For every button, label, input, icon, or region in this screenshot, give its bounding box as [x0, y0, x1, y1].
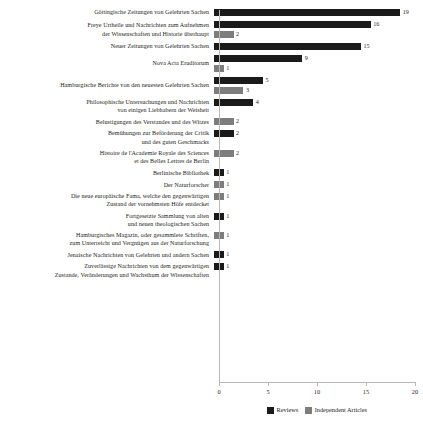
chart-row: Freye Urtheile und Nachrichten zum Aufne… — [0, 20, 423, 39]
bar-reviews[interactable] — [214, 43, 361, 50]
chart-row: Philosophische Untersuchungen und Nachri… — [0, 98, 423, 114]
category-label: Berlinische Bibliothek — [0, 169, 214, 177]
chart-row: Hamburgische Berichte von den neuesten G… — [0, 76, 423, 95]
chart-row: Nova Acta Eruditorum91 — [0, 54, 423, 73]
bar-value-label: 1 — [226, 213, 229, 220]
category-label-line: Freye Urtheile und Nachrichten zum Aufne… — [0, 21, 209, 29]
category-label: Fortgesetzte Sammlung von altenund neuen… — [0, 212, 214, 228]
x-axis-tick-label: 0 — [217, 388, 220, 396]
category-label-line: et des Belles Lettres de Berlin — [0, 157, 209, 165]
bar-line: 19 — [214, 8, 423, 17]
bar-independent[interactable] — [214, 31, 234, 38]
bar-value-label: 3 — [246, 87, 249, 94]
row-bars: 15 — [214, 42, 423, 51]
category-label: Jenaische Nachrichten von Gelehrten und … — [0, 251, 214, 259]
bar-value-label: 19 — [403, 9, 409, 16]
bar-line: 1 — [214, 192, 423, 201]
bar-value-label: 1 — [226, 232, 229, 239]
legend-item-independent[interactable]: Independent Articles — [305, 406, 367, 414]
bar-reviews[interactable] — [214, 130, 234, 137]
bar-line: 1 — [214, 168, 423, 177]
category-label-line: Göttingische Zeitungen von Gelehrten Sac… — [0, 8, 209, 16]
bar-value-label: 1 — [226, 65, 229, 72]
category-label: Freye Urtheile und Nachrichten zum Aufne… — [0, 21, 214, 37]
y-axis-line — [219, 10, 220, 382]
row-bars: 2 — [214, 117, 423, 126]
bar-value-label: 5 — [266, 77, 269, 84]
bar-line: 2 — [214, 129, 423, 138]
chart-row: Der Naturforscher1 — [0, 180, 423, 189]
chart-row: Berlinische Bibliothek1 — [0, 168, 423, 177]
bar-value-label: 2 — [236, 130, 239, 137]
category-label: Belustigungen des Verstandes und des Wit… — [0, 118, 214, 126]
chart-row: Fortgesetzte Sammlung von altenund neuen… — [0, 212, 423, 228]
bar-line: 3 — [214, 86, 423, 95]
bar-value-label: 2 — [236, 118, 239, 125]
bar-line: 2 — [214, 149, 423, 158]
category-label-line: Zuverlässige Nachrichten von dem gegenwä… — [0, 262, 209, 270]
row-bars: 1 — [214, 168, 423, 177]
bar-line: 9 — [214, 54, 423, 63]
legend-item-reviews[interactable]: Reviews — [267, 406, 298, 414]
row-bars: 1 — [214, 250, 423, 259]
bar-independent[interactable] — [214, 150, 234, 157]
bar-reviews[interactable] — [214, 55, 302, 62]
bar-line: 1 — [214, 262, 423, 271]
row-bars: 1 — [214, 192, 423, 208]
chart-row: Göttingische Zeitungen von Gelehrten Sac… — [0, 8, 423, 17]
bar-value-label: 1 — [226, 263, 229, 270]
category-label-line: Der Naturforscher — [0, 181, 209, 189]
bar-line: 2 — [214, 30, 423, 39]
category-label-line: Berlinische Bibliothek — [0, 169, 209, 177]
row-bars: 2 — [214, 129, 423, 145]
bar-value-label: 4 — [256, 99, 259, 106]
row-bars: 1 — [214, 212, 423, 228]
category-label: Philosophische Untersuchungen und Nachri… — [0, 98, 214, 114]
bar-value-label: 15 — [364, 43, 370, 50]
bar-line: 5 — [214, 76, 423, 85]
category-label-line: Hamburgische Berichte von den neuesten G… — [0, 81, 209, 89]
category-label: Hamburgisches Magazin, oder gesammlete S… — [0, 231, 214, 247]
legend-label: Independent Articles — [315, 406, 367, 414]
x-axis-tick-label: 20 — [412, 388, 418, 396]
legend-swatch-icon — [305, 407, 312, 414]
category-label-line: Neuer Zeitungen von Gelehrten Sachen — [0, 42, 209, 50]
chart-row: Jenaische Nachrichten von Gelehrten und … — [0, 250, 423, 259]
bar-value-label: 1 — [226, 181, 229, 188]
category-label: Göttingische Zeitungen von Gelehrten Sac… — [0, 8, 214, 16]
chart-row: Zuverlässige Nachrichten von dem gegenwä… — [0, 262, 423, 278]
bar-reviews[interactable] — [214, 77, 263, 84]
legend-swatch-icon — [267, 407, 274, 414]
bar-independent[interactable] — [214, 118, 234, 125]
bar-value-label: 2 — [236, 31, 239, 38]
category-label: Zuverlässige Nachrichten von dem gegenwä… — [0, 262, 214, 278]
bar-line: 1 — [214, 250, 423, 259]
row-bars: 19 — [214, 8, 423, 17]
bar-line: 2 — [214, 117, 423, 126]
category-label: Bemühungen zur Beförderung der Critikund… — [0, 129, 214, 145]
row-bars: 4 — [214, 98, 423, 114]
bar-line: 16 — [214, 20, 423, 29]
bar-reviews[interactable] — [214, 9, 400, 16]
category-label-line: Zustande, Veränderungen und Wachsthum de… — [0, 271, 209, 279]
category-label-line: Fortgesetzte Sammlung von alten — [0, 212, 209, 220]
bar-line: 1 — [214, 231, 423, 240]
bar-line: 1 — [214, 212, 423, 221]
category-label-line: der Wissenschaften und Historie überhaup… — [0, 30, 209, 38]
chart-row: Belustigungen des Verstandes und des Wit… — [0, 117, 423, 126]
chart-rows-container: Göttingische Zeitungen von Gelehrten Sac… — [0, 8, 423, 282]
row-bars: 91 — [214, 54, 423, 73]
category-label-line: Jenaische Nachrichten von Gelehrten und … — [0, 251, 209, 259]
bar-reviews[interactable] — [214, 21, 371, 28]
chart-row: Die neue europäische Fama, welche den ge… — [0, 192, 423, 208]
category-label-line: Belustigungen des Verstandes und des Wit… — [0, 118, 209, 126]
x-axis-tick — [219, 382, 220, 386]
chart-row: Histoire de l'Academie Royale des Scienc… — [0, 149, 423, 165]
x-axis-tick-label: 15 — [363, 388, 369, 396]
x-axis-tick — [415, 382, 416, 386]
bar-value-label: 16 — [373, 21, 379, 28]
chart-row: Neuer Zeitungen von Gelehrten Sachen15 — [0, 42, 423, 51]
category-label-line: Zustand der vornehmsten Höfe entdecket — [0, 200, 209, 208]
horizontal-bar-chart: Göttingische Zeitungen von Gelehrten Sac… — [0, 0, 423, 430]
row-bars: 53 — [214, 76, 423, 95]
